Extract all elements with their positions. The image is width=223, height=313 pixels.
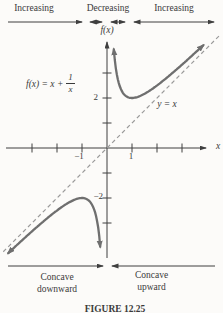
tick-label-x-neg1: −1 xyxy=(70,151,88,162)
tick-label-y-neg2: −2 xyxy=(88,191,103,202)
graph-svg xyxy=(0,0,223,313)
function-formula: f(x) = x + 1 x xyxy=(26,73,75,94)
figure-caption: FIGURE 12.25 xyxy=(60,304,170,313)
concave-upward-line1: Concave xyxy=(124,269,179,281)
concave-downward-label: Concave downward xyxy=(28,271,86,295)
x-axis-label: x xyxy=(213,141,223,152)
fraction-denominator: x xyxy=(69,84,73,94)
tick-label-x1: 1 xyxy=(124,151,138,162)
concave-upward-label: Concave upward xyxy=(124,269,179,293)
asymptote-label: y = x xyxy=(151,99,183,110)
fraction-numerator: 1 xyxy=(66,73,75,84)
label-decreasing: Decreasing xyxy=(84,3,132,14)
formula-fraction: 1 x xyxy=(66,73,75,94)
label-increasing-right: Increasing xyxy=(148,3,200,14)
formula-prefix: f(x) = x + xyxy=(26,79,63,89)
asymptote-line xyxy=(3,34,221,252)
tick-label-y2: 2 xyxy=(86,92,98,103)
concave-downward-line1: Concave xyxy=(28,271,86,283)
concave-downward-line2: downward xyxy=(28,283,86,295)
y-axis-label: f(x) xyxy=(94,25,120,36)
figure-container: Increasing Decreasing Increasing f(x) f(… xyxy=(0,0,223,313)
label-increasing-left: Increasing xyxy=(8,3,60,14)
concave-upward-line2: upward xyxy=(124,281,179,293)
